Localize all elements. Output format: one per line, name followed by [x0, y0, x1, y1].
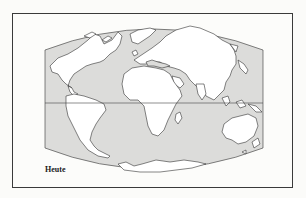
map-label: Heute — [45, 165, 65, 174]
